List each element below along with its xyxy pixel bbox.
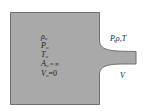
exit-velocity-label: V [120, 72, 125, 80]
exit-state-label: P,ρ,T [110, 35, 126, 43]
reservoir-velocity-label: Vo=0 [41, 70, 57, 80]
reservoir-nozzle-shape [0, 0, 149, 111]
